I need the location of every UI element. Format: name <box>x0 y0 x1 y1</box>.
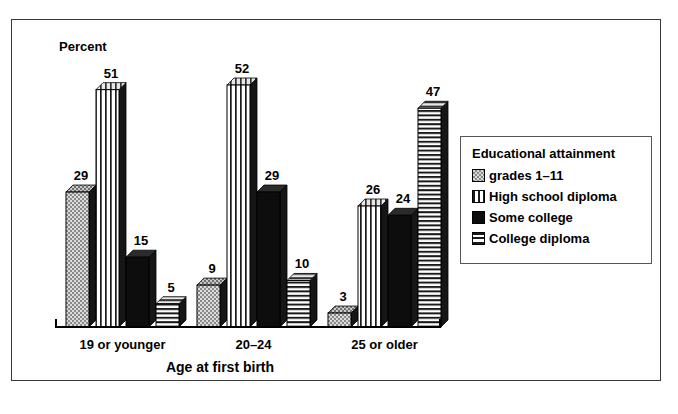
y-axis-label: Percent <box>59 40 107 53</box>
legend-item-label: grades 1–11 <box>489 168 563 183</box>
legend-swatch-icon <box>472 190 485 203</box>
bar-value-label: 52 <box>217 61 268 76</box>
legend-item-label: Some college <box>489 210 573 225</box>
bar-value-label: 51 <box>86 66 137 81</box>
bar-value-label: 47 <box>408 84 459 99</box>
legend-item-label: College diploma <box>489 231 589 246</box>
legend-item[interactable]: High school diploma <box>472 188 651 205</box>
legend-item[interactable]: grades 1–11 <box>472 167 651 184</box>
legend-item[interactable]: Some college <box>472 209 651 226</box>
bar-value-label: 15 <box>116 233 167 248</box>
legend-swatch-icon <box>472 232 485 245</box>
category-label: 25 or older <box>325 337 445 352</box>
legend-swatch-icon <box>472 211 485 224</box>
legend-title: Educational attainment <box>472 146 651 161</box>
legend-item[interactable]: College diploma <box>472 230 651 247</box>
legend-swatch-icon <box>472 169 485 182</box>
bar-value-label: 10 <box>277 256 328 271</box>
legend-item-label: High school diploma <box>489 189 617 204</box>
bar-value-label: 3 <box>318 289 369 304</box>
bar-value-label: 9 <box>187 261 238 276</box>
x-axis-title: Age at first birth <box>0 360 440 374</box>
legend-rows: grades 1–11High school diplomaSome colle… <box>472 167 651 247</box>
bar-value-label: 29 <box>247 168 298 183</box>
chart-figure: Percent Age at first birth <box>0 0 678 414</box>
bar-value-label: 5 <box>146 280 197 295</box>
bar-value-label: 24 <box>378 191 429 206</box>
legend: Educational attainment grades 1–11High s… <box>460 136 652 264</box>
category-label: 20–24 <box>194 337 314 352</box>
bar-value-label: 29 <box>56 168 107 183</box>
category-label: 19 or younger <box>63 337 183 352</box>
